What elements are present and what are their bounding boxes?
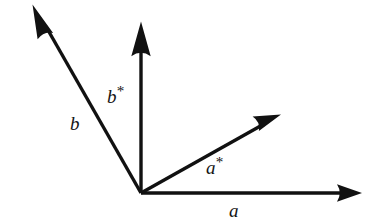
figure-background (0, 0, 385, 222)
vector-label-b-star-base: b (107, 86, 117, 107)
vector-diagram-figure: a a* b* b (0, 0, 385, 222)
vector-label-b-star: b* (107, 83, 124, 106)
vector-canvas (0, 0, 385, 222)
vector-label-b: b (70, 110, 80, 133)
vector-label-a: a (229, 197, 239, 220)
vector-label-a-star-asterisk: * (216, 153, 224, 170)
vector-label-a-star-base: a (206, 157, 216, 178)
vector-label-b-base: b (70, 113, 80, 134)
vector-label-a-base: a (229, 200, 239, 221)
vector-label-a-star: a* (206, 154, 223, 177)
vector-label-b-star-asterisk: * (117, 82, 125, 99)
